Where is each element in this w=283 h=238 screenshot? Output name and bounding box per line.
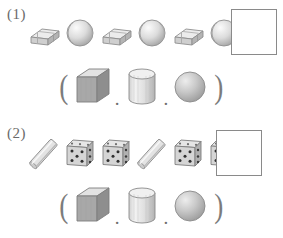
problem-2-label: (2) (7, 125, 26, 142)
sequence-item-ball (64, 15, 98, 59)
stick-icon (28, 135, 62, 175)
eraser-icon (172, 20, 206, 50)
problem-1-label: (1) (7, 6, 26, 23)
sequence-item-eraser (28, 20, 62, 64)
open-paren: ( (60, 189, 69, 223)
sequence-item-stick (136, 135, 170, 179)
eraser-icon (100, 20, 134, 50)
cylinder-icon (122, 66, 162, 110)
sphere-icon (170, 66, 210, 110)
sequence-item-eraser (172, 20, 206, 64)
choice-separator: . (164, 208, 169, 227)
sequence-item-eraser (100, 20, 134, 64)
baseball-icon (64, 15, 96, 51)
problem-2-choices: ( . (0, 181, 283, 233)
problem-2: (2) (0, 119, 283, 238)
sequence-item-ball (136, 15, 170, 59)
choice-sphere[interactable] (170, 185, 210, 229)
die-icon (64, 137, 98, 171)
choice-cylinder[interactable] (122, 66, 162, 110)
problem-1: (1) (0, 0, 283, 119)
choice-cube[interactable] (73, 185, 113, 229)
cylinder-icon (122, 185, 162, 229)
problem-1-sequence (28, 14, 278, 62)
sequence-item-die (100, 137, 134, 181)
problem-1-choices: ( . (0, 62, 283, 114)
die-icon (172, 137, 206, 171)
choice-cube[interactable] (73, 66, 113, 110)
choice-sphere[interactable] (170, 66, 210, 110)
sphere-icon (170, 185, 210, 229)
open-paren: ( (60, 70, 69, 104)
baseball-icon (136, 15, 168, 51)
problem-2-answer-box[interactable] (216, 130, 262, 176)
problem-1-answer-box[interactable] (231, 9, 277, 55)
cube-icon (73, 185, 113, 229)
choice-cylinder[interactable] (122, 185, 162, 229)
sequence-item-stick (28, 135, 62, 179)
cube-icon (73, 66, 113, 110)
problem-2-sequence (28, 133, 278, 181)
sequence-item-die (172, 137, 206, 181)
choice-separator: . (164, 89, 169, 108)
close-paren: ) (214, 70, 223, 104)
eraser-icon (28, 20, 62, 50)
choice-separator: . (115, 208, 120, 227)
choice-separator: . (115, 89, 120, 108)
die-icon (100, 137, 134, 171)
sequence-item-die (64, 137, 98, 181)
stick-icon (136, 135, 170, 175)
close-paren: ) (214, 189, 223, 223)
